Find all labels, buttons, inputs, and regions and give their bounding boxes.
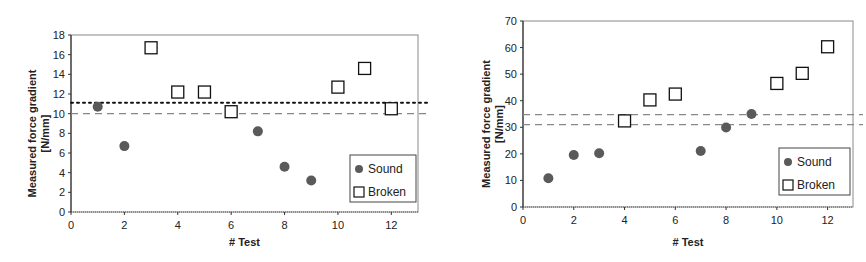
broken-marker	[198, 86, 210, 98]
y-tick-label: 6	[59, 147, 65, 159]
broken-marker	[385, 103, 397, 115]
broken-marker	[172, 86, 184, 98]
sound-marker	[306, 176, 316, 186]
broken-marker	[644, 94, 656, 106]
chart-left-force-gradient: 024681012141618024681012SoundBroken# Tes…	[26, 29, 428, 248]
figure: 024681012141618024681012SoundBroken# Tes…	[0, 0, 866, 262]
x-tick-label: 12	[821, 214, 833, 226]
sound-marker	[696, 146, 706, 156]
broken-marker	[822, 41, 834, 53]
x-tick-label: 8	[281, 219, 287, 231]
x-tick-label: 8	[723, 214, 729, 226]
x-tick-label: 6	[672, 214, 678, 226]
y-axis-title-line: [N/mm]	[39, 114, 51, 152]
chart-right-force-gradient: 010203040506070024681012SoundBroken# Tes…	[480, 15, 863, 248]
y-tick-label: 60	[505, 42, 517, 54]
y-axis-title-line: Measured force gradient	[26, 69, 38, 197]
legend-label-broken: Broken	[797, 178, 835, 192]
y-tick-label: 12	[53, 88, 65, 100]
x-tick-label: 4	[175, 219, 181, 231]
sound-marker	[253, 126, 263, 136]
x-tick-label: 10	[771, 214, 783, 226]
y-tick-label: 0	[59, 206, 65, 218]
broken-marker	[332, 81, 344, 93]
y-tick-label: 16	[53, 49, 65, 61]
broken-marker	[796, 67, 808, 79]
sound-marker	[93, 102, 103, 112]
legend-broken-icon	[783, 180, 793, 190]
sound-marker	[746, 109, 756, 119]
x-tick-label: 12	[385, 219, 397, 231]
x-tick-label: 10	[332, 219, 344, 231]
y-tick-label: 14	[53, 68, 65, 80]
x-tick-label: 0	[68, 219, 74, 231]
legend-label-broken: Broken	[368, 185, 406, 199]
legend-label-sound: Sound	[797, 155, 832, 169]
sound-marker	[721, 123, 731, 133]
sound-marker	[280, 162, 290, 172]
y-tick-label: 70	[505, 15, 517, 27]
broken-marker	[619, 115, 631, 127]
y-tick-label: 8	[59, 127, 65, 139]
broken-marker	[225, 106, 237, 118]
sound-marker	[594, 148, 604, 158]
y-tick-label: 30	[505, 121, 517, 133]
x-tick-label: 0	[520, 214, 526, 226]
y-tick-label: 4	[59, 167, 65, 179]
x-axis-title: # Test	[229, 236, 260, 248]
y-tick-label: 0	[511, 201, 517, 213]
y-tick-label: 20	[505, 148, 517, 160]
legend-sound-icon	[355, 165, 363, 173]
sound-marker	[569, 150, 579, 160]
legend-label-sound: Sound	[368, 162, 403, 176]
x-tick-label: 2	[121, 219, 127, 231]
y-axis-title-line: Measured force gradient	[480, 60, 492, 188]
y-tick-label: 40	[505, 95, 517, 107]
legend-sound-icon	[784, 158, 792, 166]
y-tick-label: 10	[505, 174, 517, 186]
y-axis-title-line: [N/mm]	[493, 105, 505, 143]
x-tick-label: 6	[228, 219, 234, 231]
sound-marker	[543, 173, 553, 183]
legend-broken-icon	[354, 187, 364, 197]
broken-marker	[771, 77, 783, 89]
y-tick-label: 2	[59, 186, 65, 198]
y-tick-label: 50	[505, 68, 517, 80]
broken-marker	[145, 42, 157, 54]
x-tick-label: 2	[571, 214, 577, 226]
broken-marker	[359, 62, 371, 74]
x-axis-title: # Test	[673, 236, 704, 248]
broken-marker	[669, 88, 681, 100]
sound-marker	[119, 141, 129, 151]
y-tick-label: 10	[53, 108, 65, 120]
y-tick-label: 18	[53, 29, 65, 41]
x-tick-label: 4	[621, 214, 627, 226]
